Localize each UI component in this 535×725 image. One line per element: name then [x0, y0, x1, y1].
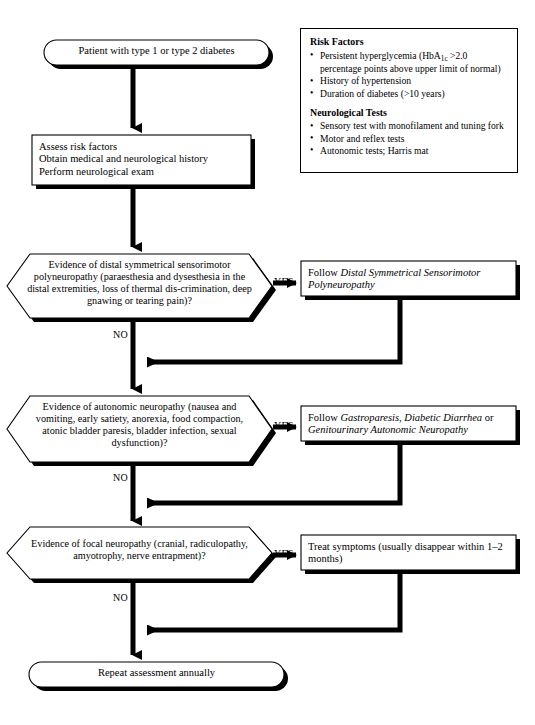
follow-autonomic-mid: or — [482, 412, 493, 423]
edge-label-yes-autonomic: YES — [274, 420, 294, 431]
edge-label-no-dspn: NO — [113, 329, 128, 340]
decision-focal-label: Evidence of focal neuropathy (cranial, r… — [24, 538, 255, 562]
follow-dspn-prefix: Follow — [308, 267, 340, 278]
follow-dspn-label: Follow Distal Symmetrical Sensorimotor P… — [308, 267, 511, 292]
risk-factors-list: Persistent hyperglycemia (HbA1c >2.0 per… — [310, 50, 509, 100]
list-item: Persistent hyperglycemia (HbA1c >2.0 per… — [310, 50, 509, 76]
edge-label-yes-dspn: YES — [274, 276, 294, 287]
assess-node-label: Assess risk factors Obtain medical and n… — [39, 141, 249, 178]
list-item: Motor and reflex tests — [310, 133, 509, 145]
list-item: Autonomic tests; Harris mat — [310, 145, 509, 157]
follow-autonomic-italic-a: Gastroparesis, Diabetic Diarrhea — [340, 412, 482, 423]
follow-autonomic-label: Follow Gastroparesis, Diabetic Diarrhea … — [308, 412, 511, 437]
end-node-label: Repeat assessment annually — [29, 667, 284, 679]
risk-factors-heading: Risk Factors — [310, 36, 509, 49]
follow-autonomic-italic-b: Genitourinary Autonomic Neuropathy — [308, 424, 468, 435]
decision-autonomic-label: Evidence of autonomic neuropathy (nausea… — [24, 401, 255, 449]
neurological-tests-heading: Neurological Tests — [310, 107, 509, 120]
list-item: History of hypertension — [310, 75, 509, 87]
edge-label-yes-focal: YES — [274, 548, 294, 559]
list-item: Duration of diabetes (>10 years) — [310, 88, 509, 100]
edge-label-no-autonomic: NO — [113, 472, 128, 483]
list-item: Sensory test with monofilament and tunin… — [310, 120, 509, 132]
start-node-label: Patient with type 1 or type 2 diabetes — [44, 45, 269, 57]
decision-dspn-label: Evidence of distal symmetrical sensorimo… — [24, 259, 255, 307]
follow-autonomic-prefix: Follow — [308, 412, 340, 423]
neurological-tests-list: Sensory test with monofilament and tunin… — [310, 120, 509, 157]
risk-item-0-pre: Persistent hyperglycemia (HbA — [320, 50, 441, 61]
info-panel: Risk Factors Persistent hyperglycemia (H… — [300, 28, 518, 173]
risk-item-1-pre: History of hypertension — [320, 75, 411, 86]
risk-item-2-pre: Duration of diabetes (>10 years) — [320, 88, 445, 99]
risk-item-0-subscript: 1c — [441, 54, 448, 62]
treat-focal-label: Treat symptoms (usually disappear within… — [308, 541, 511, 566]
edge-label-no-focal: NO — [113, 592, 128, 603]
flowchart-canvas: Patient with type 1 or type 2 diabetes A… — [0, 0, 535, 725]
